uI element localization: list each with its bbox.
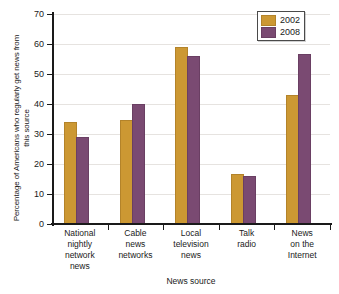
y-tick-label: 0: [39, 219, 44, 229]
x-tick-label: radio: [237, 239, 256, 249]
x-category-label: Talkradio: [219, 228, 275, 250]
x-category-label: Newson theInternet: [274, 228, 330, 261]
legend-label-2008: 2008: [280, 27, 300, 37]
x-tick-label: news: [70, 261, 90, 271]
bar-group: [108, 14, 164, 224]
x-axis-category-labels: NationalnightlynetworknewsCablenewsnetwo…: [52, 228, 330, 276]
legend: 2002 2008: [257, 11, 305, 41]
x-tick-label: Cable: [124, 228, 146, 238]
x-category-label: Cablenewsnetworks: [108, 228, 164, 261]
x-tick-label: network: [65, 250, 95, 260]
legend-item: 2002: [261, 14, 300, 26]
x-tick-label: News: [292, 228, 313, 238]
bar-chart: Percentage of Americans who regularly ge…: [0, 0, 339, 294]
bar-group: [52, 14, 108, 224]
x-tick-label: television: [173, 239, 208, 249]
y-tick-label: 30: [34, 129, 44, 139]
y-tick-label: 70: [34, 9, 44, 19]
y-tick-label: 40: [34, 99, 44, 109]
x-tick-label: Internet: [288, 250, 317, 260]
y-tick-label: 60: [34, 39, 44, 49]
y-tick-label: 50: [34, 69, 44, 79]
y-axis-line: [52, 12, 54, 226]
x-tick-label: on the: [290, 239, 314, 249]
bar-2008: [132, 104, 145, 225]
legend-swatch-2008: [261, 27, 276, 38]
legend-swatch-2002: [261, 15, 276, 26]
bar-group: [274, 14, 330, 224]
x-category-label: Localtelevisionnews: [163, 228, 219, 261]
bar-group: [163, 14, 219, 224]
y-tick-label: 10: [34, 189, 44, 199]
bar-2008: [187, 56, 200, 225]
bar-2008: [76, 137, 89, 225]
bar-2008: [243, 176, 256, 225]
x-axis-title: News source: [52, 276, 330, 286]
x-tick-label: National: [64, 228, 95, 238]
y-tick-label: 20: [34, 159, 44, 169]
bar-2008: [298, 54, 311, 224]
bar-group: [219, 14, 275, 224]
x-axis-line: [51, 223, 332, 225]
x-category-label: Nationalnightlynetworknews: [52, 228, 108, 272]
plot-area: 010203040506070: [52, 14, 330, 224]
plot-frame: 010203040506070: [52, 14, 330, 224]
x-tick-label: Local: [181, 228, 201, 238]
x-tick-label: news: [125, 239, 145, 249]
x-tick-label: networks: [118, 250, 152, 260]
x-tick-label: news: [181, 250, 201, 260]
x-tick-label: Talk: [239, 228, 254, 238]
legend-item: 2008: [261, 26, 300, 38]
y-axis-title: Percentage of Americans who regularly ge…: [12, 28, 32, 228]
x-tick-label: nightly: [68, 239, 93, 249]
legend-label-2002: 2002: [280, 15, 300, 25]
